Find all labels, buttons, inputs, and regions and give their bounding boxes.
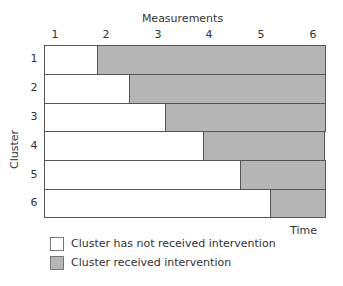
row-label-5: 5 (28, 168, 40, 181)
cluster-row-3 (44, 103, 326, 132)
row-label-1: 1 (28, 52, 40, 65)
post-intervention-segment (98, 46, 326, 74)
post-intervention-segment (271, 190, 326, 217)
post-intervention-segment (241, 161, 326, 189)
cluster-row-5 (44, 160, 326, 189)
cluster-row-6 (44, 189, 326, 218)
chart-title: Measurements (0, 12, 343, 25)
legend-label-not-received: Cluster has not received intervention (71, 237, 276, 250)
legend-label-received: Cluster received intervention (71, 256, 231, 269)
x-tick-6: 6 (305, 28, 321, 41)
row-label-2: 2 (28, 81, 40, 94)
cluster-row-2 (44, 74, 326, 103)
post-intervention-segment (204, 132, 325, 160)
chart-area (44, 45, 326, 218)
pre-intervention-segment (44, 104, 166, 132)
cluster-row-4 (44, 131, 326, 160)
x-tick-3: 3 (150, 28, 166, 41)
x-tick-2: 2 (98, 28, 114, 41)
x-axis-label: Time (290, 224, 317, 237)
post-intervention-segment (166, 104, 326, 132)
row-label-3: 3 (28, 110, 40, 123)
row-label-6: 6 (28, 196, 40, 209)
y-axis-label: Cluster (8, 120, 21, 180)
x-tick-1: 1 (47, 28, 63, 41)
x-tick-5: 5 (253, 28, 269, 41)
pre-intervention-segment (44, 132, 204, 160)
post-intervention-segment (130, 75, 326, 103)
pre-intervention-segment (44, 46, 98, 74)
legend-swatch-received (50, 256, 64, 270)
legend-swatch-not-received (50, 237, 64, 251)
x-tick-4: 4 (201, 28, 217, 41)
row-label-4: 4 (28, 139, 40, 152)
pre-intervention-segment (44, 190, 271, 217)
cluster-row-1 (44, 45, 326, 74)
pre-intervention-segment (44, 75, 130, 103)
pre-intervention-segment (44, 161, 241, 189)
